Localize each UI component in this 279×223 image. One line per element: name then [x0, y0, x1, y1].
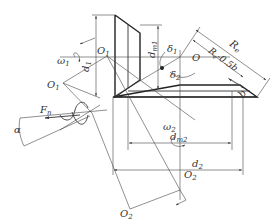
- label-o: O: [192, 52, 200, 63]
- label-dm2: dm2: [170, 131, 188, 144]
- label-o2-right: O2: [184, 169, 197, 182]
- pinion-gear-body: [115, 15, 140, 97]
- bevel-gear-diagram: O1 O1 O O2 O2 ω1 ω2 d1 dm1 dm2 d2 δ1 δ2 …: [0, 0, 279, 223]
- gear2-body: [113, 85, 257, 97]
- label-alpha: α: [14, 124, 21, 135]
- label-o1-left: O1: [47, 79, 60, 92]
- horizontal-dimensions: [113, 91, 243, 175]
- label-dm1: dm1: [146, 41, 159, 59]
- label-o1-top: O1: [97, 45, 110, 58]
- label-delta1: δ1: [167, 43, 178, 56]
- label-d1: d1: [80, 61, 93, 72]
- center-lines: [60, 50, 230, 209]
- label-o2-bottom: O2: [120, 208, 133, 221]
- label-re: Re: [226, 37, 244, 55]
- label-d2: d2: [192, 158, 203, 171]
- label-fn: Fn: [39, 104, 52, 117]
- pitch-point: [160, 66, 164, 70]
- tooth-profile: [20, 102, 107, 146]
- label-delta2: δ2: [170, 69, 181, 82]
